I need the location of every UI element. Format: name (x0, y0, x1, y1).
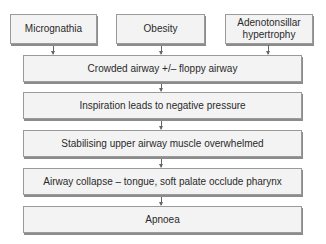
cause-micrognathia: Micrognathia (10, 14, 97, 44)
cause-adenotonsillar-hypertrophy: Adenotonsillar hypertrophy (225, 14, 313, 44)
arrow-down-icon (268, 45, 269, 54)
arrow-down-icon (161, 197, 162, 205)
arrow-down-icon (53, 46, 54, 54)
step-apnoea: Apnoea (23, 206, 302, 233)
arrow-down-icon (161, 46, 162, 54)
cause-obesity: Obesity (116, 14, 205, 44)
arrow-down-icon (161, 159, 162, 167)
step-inspiration-negative-pressure: Inspiration leads to negative pressure (23, 92, 302, 119)
step-airway-collapse: Airway collapse – tongue, soft palate oc… (23, 168, 302, 195)
arrow-down-icon (161, 84, 162, 91)
step-crowded-airway: Crowded airway +/– floppy airway (23, 55, 302, 82)
step-muscle-overwhelmed: Stabilising upper airway muscle overwhel… (23, 130, 302, 157)
arrow-down-icon (161, 121, 162, 129)
